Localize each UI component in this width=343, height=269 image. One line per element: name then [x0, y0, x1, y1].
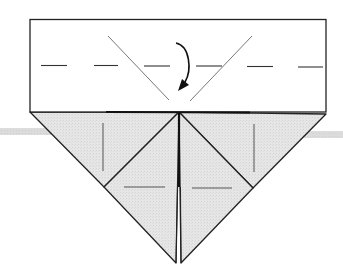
- bottom-edge-emphasis: [106, 112, 250, 113]
- origami-diagram: Origami fold step: valley fold top flap …: [0, 0, 343, 269]
- diagram-canvas: [0, 0, 343, 269]
- center-split-right: [181, 187, 182, 263]
- top-band: [30, 20, 326, 113]
